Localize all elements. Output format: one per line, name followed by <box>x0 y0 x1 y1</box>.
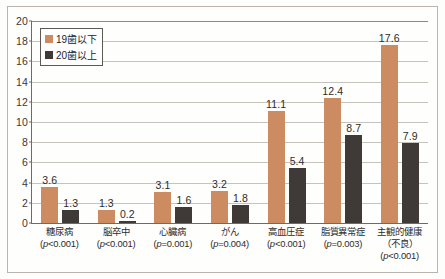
x-category-pvalue: (p<0.001) <box>371 250 428 262</box>
bar-value-label: 8.7 <box>346 122 361 134</box>
bar-slot: 17.6 <box>381 21 398 223</box>
bar[interactable]: 3.1 <box>154 192 171 223</box>
bar[interactable]: 3.6 <box>41 187 58 223</box>
bar[interactable]: 3.2 <box>211 191 228 223</box>
y-tick-label: 4 <box>22 177 28 189</box>
bar[interactable]: 5.4 <box>289 168 306 223</box>
bar[interactable]: 1.6 <box>175 207 192 223</box>
x-category-sublabel: （不良） <box>371 238 428 250</box>
y-tick-label: 0 <box>22 217 28 229</box>
x-category-name: 主観的健康 <box>371 226 428 238</box>
x-category-label: 脳卒中(p<0.001) <box>88 226 145 262</box>
bar-group: 17.67.9 <box>371 21 428 223</box>
bar-group: 11.15.4 <box>258 21 315 223</box>
bar[interactable]: 1.3 <box>62 210 79 223</box>
bar-value-label: 12.4 <box>322 85 343 97</box>
y-tick-label: 6 <box>22 156 28 168</box>
bar-value-label: 1.6 <box>176 194 191 206</box>
x-category-pvalue: (p<0.001) <box>31 238 88 250</box>
chart-figure: 20181614121086420 3.61.31.30.23.11.63.21… <box>0 0 445 279</box>
x-category-label: がん(p=0.004) <box>201 226 258 262</box>
bar-group: 3.21.8 <box>202 21 259 223</box>
bar[interactable]: 8.7 <box>345 135 362 223</box>
x-category-label: 心臓病(p=0.001) <box>144 226 201 262</box>
bar-slot: 7.9 <box>402 21 419 223</box>
chart-legend: 19歯以下20歯以上 <box>40 28 103 66</box>
bar-value-label: 1.3 <box>63 197 78 209</box>
y-tick-label: 2 <box>22 197 28 209</box>
bar[interactable]: 0.2 <box>119 221 136 223</box>
bar[interactable]: 17.6 <box>381 45 398 223</box>
bar-value-label: 0.2 <box>120 208 135 220</box>
legend-item[interactable]: 19歯以下 <box>45 31 97 46</box>
x-category-label: 高血圧症(p<0.001) <box>258 226 315 262</box>
bar-value-label: 17.6 <box>379 32 400 44</box>
x-category-name: 脳卒中 <box>88 226 145 238</box>
bar-value-label: 11.1 <box>266 98 286 110</box>
bar-value-label: 3.1 <box>155 179 170 191</box>
legend-item[interactable]: 20歯以上 <box>45 47 97 62</box>
bar-slot: 1.6 <box>175 21 192 223</box>
bar-value-label: 1.8 <box>233 192 248 204</box>
bar-group: 12.48.7 <box>315 21 372 223</box>
bar-slot: 3.1 <box>154 21 171 223</box>
bar-slot: 12.4 <box>324 21 341 223</box>
bar-slot: 5.4 <box>289 21 306 223</box>
y-tick-label: 18 <box>16 35 28 47</box>
bar-group: 3.11.6 <box>145 21 202 223</box>
legend-color-swatch <box>45 35 53 43</box>
x-category-label: 糖尿病(p<0.001) <box>31 226 88 262</box>
legend-color-swatch <box>45 51 53 59</box>
bar-value-label: 1.3 <box>99 197 114 209</box>
x-category-label: 脂質異常症(p=0.003) <box>315 226 372 262</box>
y-tick-label: 16 <box>16 55 28 67</box>
legend-label: 19歯以下 <box>56 31 97 46</box>
bar-slot: 11.1 <box>268 21 285 223</box>
x-axis-category-labels: 糖尿病(p<0.001)脳卒中(p<0.001)心臓病(p=0.001)がん(p… <box>31 226 428 262</box>
bar-value-label: 3.6 <box>42 174 57 186</box>
bar-slot: 0.2 <box>119 21 136 223</box>
x-category-name: 高血圧症 <box>258 226 315 238</box>
bar-slot: 1.8 <box>232 21 249 223</box>
bar[interactable]: 11.1 <box>268 111 285 223</box>
bar[interactable]: 1.3 <box>98 210 115 223</box>
bar[interactable]: 7.9 <box>402 143 419 223</box>
x-category-pvalue: (p=0.001) <box>144 238 201 250</box>
x-category-name: 糖尿病 <box>31 226 88 238</box>
y-tick-label: 10 <box>16 116 28 128</box>
bar[interactable]: 12.4 <box>324 98 341 223</box>
x-category-pvalue: (p<0.001) <box>88 238 145 250</box>
x-category-name: 心臓病 <box>144 226 201 238</box>
x-category-name: がん <box>201 226 258 238</box>
x-category-pvalue: (p=0.004) <box>201 238 258 250</box>
y-tick-label: 20 <box>16 15 28 27</box>
bar-slot: 3.2 <box>211 21 228 223</box>
x-category-pvalue: (p=0.003) <box>315 238 372 250</box>
x-category-pvalue: (p<0.001) <box>258 238 315 250</box>
y-tick-label: 8 <box>22 136 28 148</box>
bar-slot: 8.7 <box>345 21 362 223</box>
bar-value-label: 3.2 <box>212 178 227 190</box>
legend-label: 20歯以上 <box>56 47 97 62</box>
y-tick-label: 14 <box>16 76 28 88</box>
x-category-label: 主観的健康（不良）(p<0.001) <box>371 226 428 262</box>
x-category-name: 脂質異常症 <box>315 226 372 238</box>
y-tick-label: 12 <box>16 96 28 108</box>
bar[interactable]: 1.8 <box>232 205 249 223</box>
bar-value-label: 7.9 <box>403 130 418 142</box>
bar-value-label: 5.4 <box>290 155 305 167</box>
